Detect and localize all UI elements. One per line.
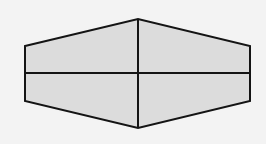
diagram-canvas — [0, 0, 266, 144]
